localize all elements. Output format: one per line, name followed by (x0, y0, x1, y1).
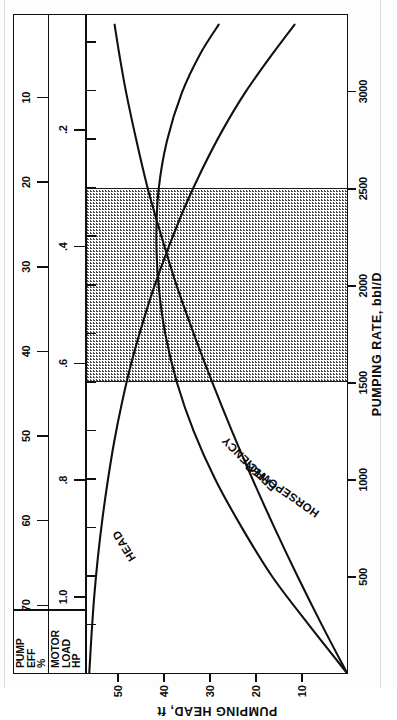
pump-eff-tick (37, 520, 48, 522)
motor-load-scale-title: MOTOR LOAD HP (50, 630, 82, 668)
plot-top-minor-tick (87, 41, 96, 43)
motor-load-tick-label: .4 (57, 242, 69, 251)
motor-load-band-divider (49, 609, 85, 611)
x-axis-tick (348, 382, 356, 384)
plot-top-minor-tick (87, 284, 96, 286)
x-axis-tick-label: 2500 (357, 177, 369, 200)
plot-top-minor-tick (87, 138, 96, 140)
x-axis-tick (348, 576, 356, 578)
motor-load-tick-label: .8 (57, 476, 69, 485)
y-axis-tick (301, 674, 303, 682)
pump-eff-tick-label: 40 (20, 346, 32, 358)
x-axis-tick-label: 3000 (357, 80, 369, 103)
y-axis-tick-label: 40 (158, 685, 170, 697)
x-axis-tick (348, 91, 356, 93)
pump-eff-tick (37, 351, 48, 353)
motor-load-tick (74, 596, 85, 598)
y-axis-tick-label: 30 (204, 685, 216, 697)
efficiency-curve (156, 25, 347, 673)
plot-top-minor-tick (87, 381, 96, 383)
motor-load-tick-label: .6 (57, 359, 69, 368)
pump-eff-tick-label: 10 (20, 92, 32, 104)
x-axis-tick-label: 1500 (357, 371, 369, 394)
y-axis-tick-label: 20 (250, 685, 262, 697)
y-axis-tick-label: 10 (296, 685, 308, 697)
plot-top-minor-tick (87, 430, 96, 432)
y-axis-title: PUMPING HEAD, ft (86, 703, 348, 719)
plot-top-minor-tick (87, 527, 96, 529)
pump-eff-tick-label: 50 (20, 430, 32, 442)
motor-load-tick (74, 479, 85, 481)
rotated-figure: PUMP EFF % 70605040302010 MOTOR LOAD HP … (13, 14, 385, 674)
motor-load-tick (74, 246, 85, 248)
x-axis-tick (348, 479, 356, 481)
y-axis-tick (255, 674, 257, 682)
plot-top-minor-tick (87, 333, 96, 335)
x-axis-tick-label: 1000 (357, 468, 369, 491)
curves-svg (87, 15, 347, 673)
pump-eff-tick (37, 97, 48, 99)
plot-top-minor-tick (87, 90, 96, 92)
y-axis-tick (163, 674, 165, 682)
plot-top-minor-tick (87, 187, 96, 189)
page-edge-left (4, 0, 5, 688)
plot-area (86, 14, 348, 674)
y-axis-tick (209, 674, 211, 682)
motor-load-tick-label: 1.0 (57, 590, 69, 604)
plot-top-minor-tick (87, 624, 96, 626)
pump-eff-tick (37, 181, 48, 183)
pump-eff-tick (37, 435, 48, 437)
plot-top-minor-tick (87, 235, 96, 237)
x-axis-tick (348, 188, 356, 190)
x-axis: PUMPING RATE, bbl/D 50010001500200025003… (348, 14, 385, 674)
pump-eff-tick-label: 20 (20, 176, 32, 188)
motor-load-tick-label: .2 (57, 126, 69, 135)
x-axis-title: PUMPING RATE, bbl/D (370, 14, 384, 674)
pump-efficiency-scale-title: PUMP EFF % (15, 638, 47, 668)
pump-eff-tick-label: 70 (20, 599, 32, 611)
x-axis-tick-label: 2000 (357, 274, 369, 297)
pump-eff-tick (37, 266, 48, 268)
y-axis-tick (117, 674, 119, 682)
y-axis-tick-label: 50 (112, 685, 124, 697)
horsepower-curve (114, 25, 346, 673)
head-curve (89, 25, 294, 673)
x-axis-tick-label: 500 (357, 568, 369, 585)
pump-efficiency-scale-band: PUMP EFF % 70605040302010 (13, 14, 49, 674)
motor-load-scale-band: MOTOR LOAD HP 1.0.8.6.4.2 (48, 14, 86, 674)
pump-eff-tick (37, 605, 48, 607)
motor-load-tick (74, 129, 85, 131)
motor-load-tick (74, 363, 85, 365)
pump-eff-tick-label: 60 (20, 515, 32, 527)
x-axis-tick (348, 285, 356, 287)
plot-top-minor-tick (87, 478, 96, 480)
pump-eff-tick-label: 30 (20, 261, 32, 273)
plot-top-minor-tick (87, 575, 96, 577)
